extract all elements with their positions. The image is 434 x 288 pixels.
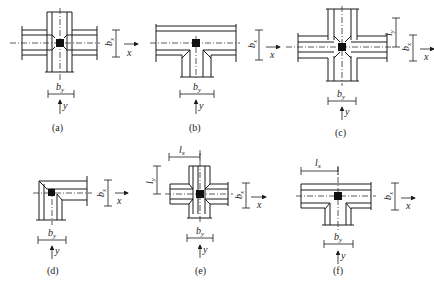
label-by-f: by xyxy=(334,231,343,244)
label-x-d: x xyxy=(116,195,122,206)
caption-d: (d) xyxy=(47,265,59,277)
label-y-c: y xyxy=(344,106,350,117)
label-x-c: x xyxy=(423,51,429,62)
label-by-d: by xyxy=(48,227,57,240)
label-by-a: by xyxy=(56,81,65,94)
label-bx-e: bx xyxy=(233,190,246,199)
label-y-e: y xyxy=(202,244,208,255)
label-ly-e: ly xyxy=(144,177,157,184)
panel-b: bx x by y (b) xyxy=(150,24,280,134)
caption-b: (b) xyxy=(189,122,201,134)
label-by-e: by xyxy=(196,225,205,238)
label-bx-b: bx xyxy=(246,39,259,48)
label-y-b: y xyxy=(198,100,204,111)
beam-corner-d xyxy=(36,176,87,220)
column-f xyxy=(334,192,342,200)
label-y-d: y xyxy=(54,245,60,256)
label-bx-d: bx xyxy=(95,188,108,197)
label-bx-f: bx xyxy=(382,191,395,200)
column-e xyxy=(196,190,204,198)
caption-c: (c) xyxy=(335,127,346,139)
label-x-b: x xyxy=(269,49,275,60)
label-lx-e: lx xyxy=(179,144,186,157)
label-lx-f: lx xyxy=(315,157,322,170)
beam-y-b xyxy=(180,50,214,77)
column-b xyxy=(192,39,200,47)
panel-a: bx x by y (a) xyxy=(10,8,138,134)
label-ly-c: ly xyxy=(383,29,396,36)
panel-e: lx ly bx x by y (e) xyxy=(144,144,266,277)
panel-f: lx bx x by y (f) xyxy=(296,157,415,277)
caption-e: (e) xyxy=(195,265,206,277)
panel-c: ly bx x by y (c) xyxy=(286,6,434,139)
column-c xyxy=(338,43,346,51)
label-x-e: x xyxy=(256,199,262,210)
caption-a: (a) xyxy=(52,122,63,134)
label-bx-a: bx xyxy=(103,37,116,46)
column-d xyxy=(48,189,55,196)
label-by-b: by xyxy=(193,81,202,94)
caption-f: (f) xyxy=(333,265,343,277)
joint-diagram: bx x by y (a) xyxy=(0,0,434,288)
label-by-c: by xyxy=(337,88,346,101)
label-y-f: y xyxy=(340,250,346,261)
label-y-a: y xyxy=(62,100,68,111)
label-x-f: x xyxy=(405,200,411,211)
label-x-a: x xyxy=(126,47,132,58)
label-bx-c: bx xyxy=(400,42,413,51)
column-a xyxy=(56,39,64,47)
panel-d: bx x by y (d) xyxy=(33,176,128,277)
